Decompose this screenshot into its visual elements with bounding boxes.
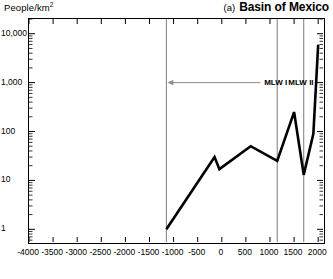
x-tick-label-8: 0 (218, 247, 223, 257)
chart-svg (29, 19, 323, 242)
y-tick-label-3: 1,000 (1, 77, 22, 87)
chart-title: (a) Basin of Mexico (224, 0, 329, 14)
x-tick-label-12: 2000 (308, 247, 327, 257)
annotation-mlw2: MLW II (288, 77, 313, 86)
x-tick-label-2: -3000 (65, 247, 87, 257)
y-axis-title-exponent: 2 (50, 1, 54, 8)
x-tick-label-1: -3500 (41, 247, 63, 257)
x-tick-label-4: -2000 (114, 247, 136, 257)
x-tick-label-11: 1500 (284, 247, 303, 257)
page-title: Basin of Mexico (239, 0, 329, 14)
y-axis-title-text: People/km (4, 2, 50, 13)
x-tick-label-5: -1500 (138, 247, 160, 257)
x-tick-label-3: -2500 (89, 247, 111, 257)
y-tick-label-4: 10,000 (1, 28, 27, 38)
plot-area (28, 18, 325, 244)
data-series-line (166, 45, 318, 230)
x-tick-label-6: -1000 (162, 247, 184, 257)
annotation-arrow-head (167, 80, 173, 85)
y-tick-label-1: 10 (1, 174, 10, 184)
y-tick-label-2: 100 (1, 126, 15, 136)
y-axis-title: People/km2 (4, 1, 54, 13)
annotation-mlw1: MLW I (264, 77, 287, 86)
chart-root: People/km2 (a) Basin of Mexico 1101001,0… (0, 0, 333, 279)
x-tick-label-9: 500 (238, 247, 252, 257)
x-tick-label-7: -500 (188, 247, 205, 257)
x-tick-label-10: 1000 (260, 247, 279, 257)
x-tick-label-0: -4000 (17, 247, 39, 257)
panel-tag: (a) (224, 2, 236, 13)
plot-inner (29, 19, 324, 243)
y-tick-label-0: 1 (1, 223, 6, 233)
